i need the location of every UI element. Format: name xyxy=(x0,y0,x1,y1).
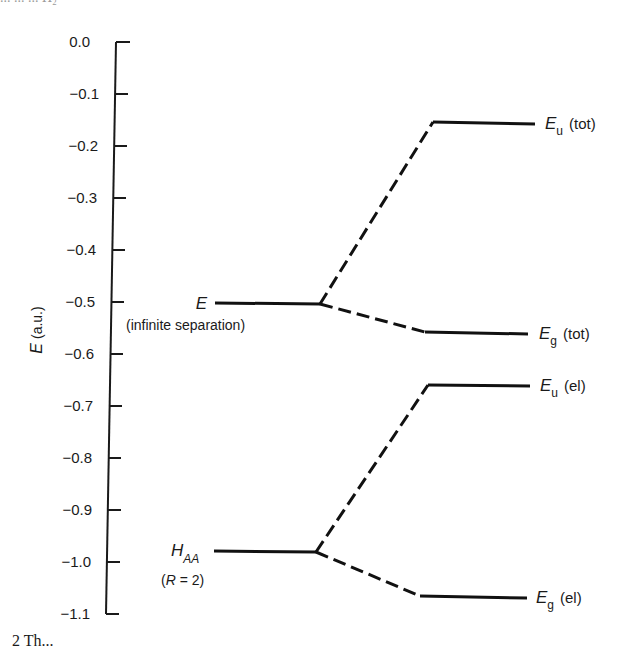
level-h-aa xyxy=(214,551,316,552)
y-tick-label: −0.7 xyxy=(63,397,93,414)
label-eg-el: Eg(el) xyxy=(536,588,582,612)
y-tick-label: −0.2 xyxy=(68,137,98,154)
label-eu-tot: Eu(tot) xyxy=(545,114,596,138)
y-axis-title: E(a.u.) xyxy=(28,306,45,353)
y-tick-label: −1.0 xyxy=(61,553,91,570)
cropped-caption-text: 2 Th... xyxy=(12,632,53,650)
connector-e-to-eg-tot xyxy=(320,304,425,332)
y-tick-label: −1.1 xyxy=(60,605,90,622)
label-e-infinite: E xyxy=(196,294,208,313)
label-infinite-separation-note: (infinite separation) xyxy=(126,317,245,333)
level-eg-el xyxy=(420,596,527,598)
y-tick-label: −0.6 xyxy=(64,345,94,362)
y-tick-label: −0.3 xyxy=(67,189,97,206)
y-tick-label: −0.4 xyxy=(66,241,96,258)
y-tick-label: −0.5 xyxy=(65,293,95,310)
y-axis-line xyxy=(106,42,116,614)
label-h-aa: HAA xyxy=(171,541,199,566)
y-tick-labels: 0.0 −0.1 −0.2 −0.3 −0.4 −0.5 −0.6 −0.7 −… xyxy=(60,33,99,622)
level-eg-tot xyxy=(425,332,528,334)
label-h-aa-note: (R = 2) xyxy=(161,572,204,588)
connector-haa-to-eg-el xyxy=(316,552,420,596)
y-tick-label: −0.1 xyxy=(69,85,99,102)
y-tick-label: −0.9 xyxy=(62,501,92,518)
label-eg-tot: Eg(tot) xyxy=(539,324,590,348)
connector-e-to-eu-tot xyxy=(320,122,433,304)
level-eu-el xyxy=(428,385,530,386)
level-eu-tot xyxy=(433,122,535,124)
y-tick-label: 0.0 xyxy=(69,33,90,50)
label-eu-el: Eu(el) xyxy=(540,376,586,400)
connector-haa-to-eu-el xyxy=(316,385,428,552)
y-tick-label: −0.8 xyxy=(62,449,92,466)
level-e-infinite-separation xyxy=(215,303,320,304)
